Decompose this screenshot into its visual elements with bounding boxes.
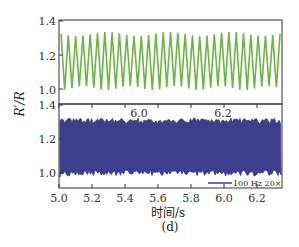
- y-tick: 1.2: [39, 133, 57, 146]
- x-tick: 5.0: [50, 192, 68, 205]
- panel-label: (d): [161, 220, 178, 234]
- top-x-tick: 6.0: [130, 107, 148, 120]
- top-panel: [59, 20, 282, 104]
- x-tick: 5.2: [83, 192, 101, 205]
- blue-series: [60, 118, 281, 177]
- y-axis-label: R′/R: [13, 92, 27, 118]
- bottom-panel: [59, 104, 282, 188]
- x-tick: 6.2: [248, 192, 266, 205]
- y-tick: 1.4: [39, 15, 57, 28]
- x-axis-label: 时间/s: [151, 206, 185, 220]
- x-tick: 6.0: [215, 192, 233, 205]
- y-tick: 1.4: [39, 99, 57, 112]
- green-series: [61, 32, 280, 90]
- x-tick: 5.6: [149, 192, 167, 205]
- chart: 1.4 1.2 1.0 1.4 1.2 1.0 6.0 6.2 5.0 5.2 …: [0, 0, 299, 247]
- y-tick: 1.2: [39, 50, 57, 63]
- x-tick: 5.8: [182, 192, 200, 205]
- y-tick: 1.0: [39, 84, 57, 97]
- y-tick: 1.0: [39, 167, 57, 180]
- legend-label: 100 Hz 20×: [233, 179, 281, 188]
- top-x-tick: 6.2: [214, 107, 232, 120]
- x-tick: 5.4: [116, 192, 134, 205]
